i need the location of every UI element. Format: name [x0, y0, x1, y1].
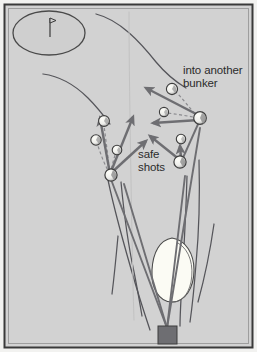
ball-right-origin: [194, 112, 207, 125]
ball-right-lower-origin: [174, 156, 186, 168]
tee-box: [158, 326, 177, 344]
putting-green: [13, 11, 85, 55]
ball-right-top: [166, 83, 177, 94]
label-into-another-bunker: into another bunker: [183, 64, 243, 89]
putting-green-group: [13, 11, 85, 55]
label-safe-shots: safe shots: [138, 148, 165, 173]
ball-left-mid: [91, 135, 101, 145]
golf-diagram-figure: into another bunker safe shots: [0, 0, 257, 352]
ball-left-lower: [112, 145, 122, 155]
figure-frame-outer: [5, 5, 253, 348]
diagram-canvas: [0, 0, 257, 352]
ball-left-origin: [105, 169, 117, 181]
ball-left-top: [99, 116, 110, 127]
ball-right-mid-upper: [159, 107, 168, 116]
ball-right-mid-lower: [176, 134, 185, 143]
tee-box-group: [158, 326, 177, 344]
